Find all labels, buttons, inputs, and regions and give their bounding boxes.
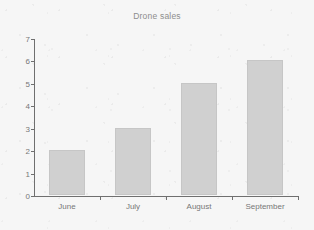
y-axis-tick-mark bbox=[31, 129, 35, 130]
y-axis-tick-label: 1 bbox=[26, 169, 30, 178]
y-axis-tick-mark bbox=[31, 151, 35, 152]
bar bbox=[115, 128, 152, 195]
y-axis-tick-label: 5 bbox=[26, 79, 30, 88]
x-axis-tick-mark bbox=[166, 196, 167, 200]
bar-chart: Drone sales 01234567 JuneJulyAugustSepte… bbox=[0, 0, 314, 230]
x-axis-tick-mark bbox=[232, 196, 233, 200]
y-axis-tick-mark bbox=[31, 106, 35, 107]
x-axis-tick-mark bbox=[298, 196, 299, 200]
y-axis-tick-label: 2 bbox=[26, 147, 30, 156]
bar bbox=[49, 150, 86, 195]
chart-title: Drone sales bbox=[0, 11, 314, 21]
x-axis-tick-label: June bbox=[58, 202, 75, 211]
y-axis-tick-label: 4 bbox=[26, 102, 30, 111]
y-axis-tick-mark bbox=[31, 84, 35, 85]
y-axis-tick-label: 0 bbox=[26, 192, 30, 201]
y-axis-tick-label: 7 bbox=[26, 35, 30, 44]
bar bbox=[181, 83, 218, 195]
y-axis-tick-label: 6 bbox=[26, 57, 30, 66]
y-axis-tick-label: 3 bbox=[26, 124, 30, 133]
x-axis-tick-label: July bbox=[126, 202, 140, 211]
y-axis-tick-mark bbox=[31, 174, 35, 175]
plot-area: 01234567 JuneJulyAugustSeptember bbox=[34, 39, 298, 196]
y-axis-tick-mark bbox=[31, 39, 35, 40]
bar bbox=[247, 60, 284, 195]
x-axis-tick-label: August bbox=[187, 202, 212, 211]
y-axis-tick-mark bbox=[31, 196, 35, 197]
x-axis-tick-mark bbox=[100, 196, 101, 200]
x-axis-tick-label: September bbox=[245, 202, 284, 211]
y-axis-tick-mark bbox=[31, 61, 35, 62]
